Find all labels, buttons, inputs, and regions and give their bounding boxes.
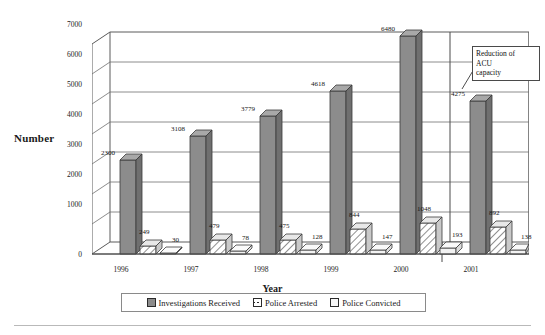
footer-divider <box>14 325 531 326</box>
value-label-arrested-1998: 475 <box>279 222 290 230</box>
chart-legend: Investigations Received Police Arrested … <box>121 293 426 312</box>
y-tick-5000: 5000 <box>48 80 82 89</box>
y-tick-2000: 2000 <box>48 170 82 179</box>
value-label-convicted-1997: 78 <box>242 234 249 242</box>
value-label-investigations-1996: 2300 <box>101 149 115 157</box>
value-label-arrested-1999: 844 <box>349 211 360 219</box>
value-label-convicted-2001: 138 <box>521 233 532 241</box>
x-tick-1997: 1997 <box>168 265 214 274</box>
value-label-arrested-2000: 1048 <box>417 205 431 213</box>
legend-item-investigations-received[interactable]: Investigations Received <box>147 298 240 308</box>
x-tick-1998: 1998 <box>238 265 284 274</box>
annotation-line-3: capacity <box>476 68 536 78</box>
legend-label-police-arrested: Police Arrested <box>265 298 317 308</box>
value-label-convicted-1999: 147 <box>382 233 393 241</box>
y-tick-1000: 1000 <box>48 200 82 209</box>
x-tick-2001: 2001 <box>448 265 494 274</box>
value-label-convicted-2000: 193 <box>452 231 463 239</box>
x-tick-2000: 2000 <box>378 265 424 274</box>
value-label-convicted-1996: 30 <box>172 236 179 244</box>
value-label-arrested-1996: 249 <box>139 228 150 236</box>
x-tick-1999: 1999 <box>308 265 354 274</box>
white-swatch-icon <box>330 298 339 307</box>
legend-item-police-convicted[interactable]: Police Convicted <box>330 298 400 308</box>
value-label-arrested-2001: 892 <box>489 209 500 217</box>
legend-item-police-arrested[interactable]: Police Arrested <box>253 298 317 308</box>
y-tick-6000: 6000 <box>48 50 82 59</box>
annotation-acu-capacity: Reduction of ACU capacity <box>472 46 540 81</box>
legend-label-investigations-received: Investigations Received <box>159 298 240 308</box>
value-label-convicted-1998: 128 <box>312 233 323 241</box>
y-tick-7000: 7000 <box>48 20 82 29</box>
solid-gray-swatch-icon <box>147 298 156 307</box>
value-label-investigations-1998: 3779 <box>241 105 255 113</box>
annotation-line-1: Reduction of <box>476 49 536 59</box>
value-label-investigations-1997: 3108 <box>171 125 185 133</box>
legend-label-police-convicted: Police Convicted <box>342 298 400 308</box>
y-tick-0: 0 <box>48 250 82 259</box>
plot-svg <box>92 14 529 262</box>
value-label-investigations-2000: 6480 <box>381 25 395 33</box>
x-tick-1996: 1996 <box>98 265 144 274</box>
value-label-investigations-1999: 4618 <box>311 80 325 88</box>
value-label-investigations-2001: 4275 <box>451 90 465 98</box>
annotation-line-2: ACU <box>476 59 536 69</box>
bar-chart: Number <box>0 0 545 335</box>
plot-area <box>92 14 529 262</box>
value-label-arrested-1997: 479 <box>209 222 220 230</box>
y-tick-3000: 3000 <box>48 140 82 149</box>
hatched-swatch-icon <box>253 298 262 307</box>
y-tick-4000: 4000 <box>48 110 82 119</box>
